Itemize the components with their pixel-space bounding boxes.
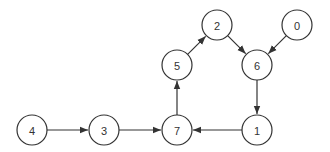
node-5: 5 (162, 50, 192, 80)
node-label: 3 (101, 125, 107, 137)
node-label: 0 (294, 20, 300, 32)
node-label: 4 (29, 125, 35, 137)
node-3: 3 (89, 115, 119, 145)
node-label: 2 (214, 20, 220, 32)
node-label: 1 (254, 125, 260, 137)
node-6: 6 (242, 50, 272, 80)
node-1: 1 (242, 115, 272, 145)
nodes-layer: 01234567 (17, 10, 312, 145)
edge-5-to-2 (188, 36, 206, 54)
node-label: 7 (174, 125, 180, 137)
edge-2-to-6 (228, 36, 246, 54)
edge-0-to-6 (268, 36, 286, 54)
node-4: 4 (17, 115, 47, 145)
node-2: 2 (202, 10, 232, 40)
node-7: 7 (162, 115, 192, 145)
node-0: 0 (282, 10, 312, 40)
graph-canvas: 01234567 (0, 0, 330, 152)
node-label: 6 (254, 60, 260, 72)
node-label: 5 (174, 60, 180, 72)
